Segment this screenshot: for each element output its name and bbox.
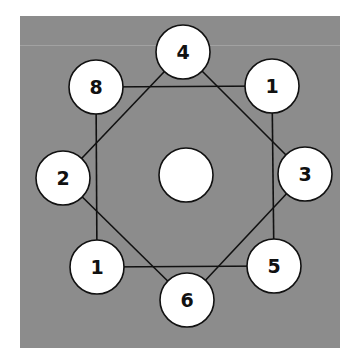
node-3: 3 <box>278 147 332 201</box>
center-node <box>159 148 213 202</box>
node-label: 2 <box>56 167 69 189</box>
node-1-bottom: 1 <box>70 240 124 294</box>
node-label: 1 <box>90 256 103 278</box>
node-1-top: 1 <box>245 59 299 113</box>
node-8: 8 <box>69 60 123 114</box>
node-6: 6 <box>160 273 214 327</box>
node-label: 8 <box>89 76 102 98</box>
node-label: 3 <box>298 163 311 185</box>
node-5: 5 <box>247 239 301 293</box>
node-label: 1 <box>265 75 278 97</box>
node-label: 5 <box>267 255 280 277</box>
node-4: 4 <box>156 25 210 79</box>
node-label: 6 <box>180 289 193 311</box>
octagon-diagram: 4 1 3 5 6 1 2 8 <box>0 0 353 361</box>
node-2: 2 <box>36 151 90 205</box>
node-label: 4 <box>176 41 189 63</box>
